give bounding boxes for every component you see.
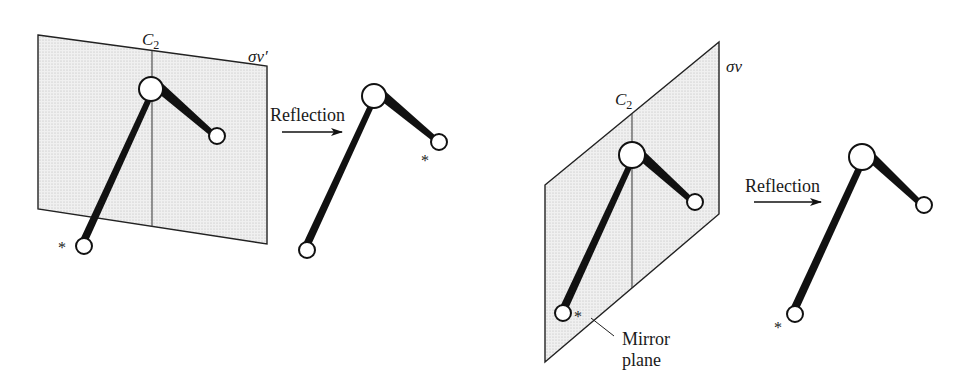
mirror-plane-label-line2: plane [622, 350, 661, 370]
outer-atom-right [687, 194, 703, 210]
central-atom [619, 142, 645, 168]
outer-atom-starred [76, 238, 92, 254]
outer-atom-starred [555, 305, 571, 321]
c2-axis-label: C2 [142, 30, 159, 52]
molecule-reflected: * [774, 144, 932, 336]
reflection-label: Reflection [745, 176, 820, 196]
outer-atom-right [916, 197, 932, 213]
sigma-v-prime-label: σv′ [248, 47, 268, 66]
central-atom [139, 77, 163, 101]
bond-short [380, 91, 438, 143]
right-panel: C2 σv * Mirror plane Reflection * [545, 42, 932, 370]
star-marker: * [574, 308, 582, 325]
outer-atom-right [209, 128, 225, 144]
reflection-label: Reflection [270, 105, 345, 125]
left-panel: C2 σv′ * Reflection * [38, 30, 447, 258]
outer-atom-bottom [299, 242, 315, 258]
star-marker: * [774, 319, 782, 336]
outer-atom-starred [787, 306, 803, 322]
star-marker: * [58, 239, 66, 256]
mirror-plane-label-line1: Mirror [622, 329, 670, 349]
outer-atom-starred [431, 134, 447, 150]
central-atom [362, 84, 386, 108]
bond-short [869, 153, 923, 207]
central-atom [849, 144, 875, 170]
mirror-plane-leader-line [591, 318, 614, 336]
sigma-v-label: σv [726, 57, 742, 76]
star-marker: * [421, 152, 429, 169]
symmetry-reflection-diagram: C2 σv′ * Reflection * C2 σ [0, 0, 968, 390]
c2-axis-label: C2 [615, 90, 632, 112]
